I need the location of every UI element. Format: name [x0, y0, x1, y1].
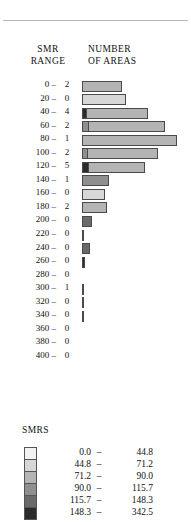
- histogram-bar: [82, 135, 177, 146]
- legend-row: 148.3–342.5: [45, 507, 191, 519]
- bar-segment: [82, 94, 126, 105]
- histogram-row: 360 –0: [0, 324, 191, 338]
- row-count-label: 2: [60, 79, 74, 89]
- legend-swatch: [25, 484, 36, 496]
- legend-range-high: 115.7: [107, 483, 153, 493]
- legend-color-ramp: [24, 447, 37, 520]
- legend-range-dash: –: [91, 495, 107, 505]
- row-count-label: 0: [60, 350, 74, 360]
- legend-range-dash: –: [91, 507, 107, 517]
- histogram-bar: [82, 216, 92, 227]
- histogram-row: 380 –0: [0, 337, 191, 351]
- legend-range-low: 115.7: [45, 495, 91, 505]
- bar-segment: [82, 243, 90, 254]
- row-count-label: 5: [60, 160, 74, 170]
- legend-swatch: [25, 496, 36, 508]
- row-range-label: 0 –: [0, 79, 56, 89]
- row-count-label: 0: [60, 269, 74, 279]
- legend-range-low: 44.8: [45, 459, 91, 469]
- histogram-bar: [82, 108, 148, 119]
- row-range-label: 100 –: [0, 147, 56, 157]
- histogram-bar: [82, 175, 109, 186]
- histogram-row: 0 –2: [0, 80, 191, 94]
- row-count-label: 1: [60, 174, 74, 184]
- row-range-label: 320 –: [0, 296, 56, 306]
- histogram-rows: 0 –220 –040 –460 –280 –1100 –2120 –5140 …: [0, 80, 191, 364]
- histogram-row: 240 –0: [0, 243, 191, 257]
- column-headers: SMR RANGE NUMBER OF AREAS: [0, 44, 191, 76]
- row-count-label: 0: [60, 242, 74, 252]
- row-range-label: 60 –: [0, 120, 56, 130]
- row-count-label: 0: [60, 336, 74, 346]
- bar-segment: [82, 81, 122, 92]
- histogram-row: 140 –1: [0, 175, 191, 189]
- legend-range-dash: –: [91, 447, 107, 457]
- bar-segment: [86, 108, 148, 119]
- legend-swatch: [25, 508, 36, 520]
- bar-segment: [87, 148, 158, 159]
- bar-segment: [82, 311, 84, 322]
- row-range-label: 180 –: [0, 201, 56, 211]
- row-range-label: 120 –: [0, 160, 56, 170]
- legend-swatch: [25, 448, 36, 460]
- histogram-row: 280 –0: [0, 270, 191, 284]
- legend-range-high: 342.5: [107, 507, 153, 517]
- bar-segment: [82, 135, 177, 146]
- histogram-bar: [82, 148, 158, 159]
- histogram-row: 320 –0: [0, 297, 191, 311]
- legend-range-low: 0.0: [45, 447, 91, 457]
- top-divider: [3, 20, 188, 21]
- row-range-label: 280 –: [0, 269, 56, 279]
- histogram-row: 180 –2: [0, 202, 191, 216]
- bar-segment: [88, 162, 145, 173]
- legend-row: 71.2–90.0: [45, 471, 191, 483]
- legend-row: 0.0–44.8: [45, 447, 191, 459]
- row-count-label: 0: [60, 323, 74, 333]
- histogram-bar: [82, 257, 85, 268]
- legend-range-high: 44.8: [107, 447, 153, 457]
- row-count-label: 2: [60, 120, 74, 130]
- legend-range-dash: –: [91, 471, 107, 481]
- histogram-bar: [82, 94, 126, 105]
- row-count-label: 2: [60, 147, 74, 157]
- histogram-row: 220 –0: [0, 229, 191, 243]
- histogram-bar: [82, 243, 90, 254]
- row-count-label: 0: [60, 255, 74, 265]
- row-count-label: 1: [60, 282, 74, 292]
- histogram-row: 340 –0: [0, 310, 191, 324]
- row-range-label: 240 –: [0, 242, 56, 252]
- row-range-label: 260 –: [0, 255, 56, 265]
- histogram-row: 20 –0: [0, 94, 191, 108]
- legend-row: 44.8–71.2: [45, 459, 191, 471]
- histogram-bar: [82, 311, 84, 322]
- histogram-row: 260 –0: [0, 256, 191, 270]
- histogram-bar: [82, 297, 84, 308]
- histogram-bar: [82, 189, 105, 200]
- bar-segment: [82, 202, 107, 213]
- row-range-label: 360 –: [0, 323, 56, 333]
- legend-row: 90.0–115.7: [45, 483, 191, 495]
- row-count-label: 0: [60, 93, 74, 103]
- row-range-label: 20 –: [0, 93, 56, 103]
- bar-segment: [88, 121, 165, 132]
- bar-segment: [82, 175, 109, 186]
- bar-segment: [82, 257, 85, 268]
- bar-segment: [82, 230, 84, 241]
- row-range-label: 200 –: [0, 214, 56, 224]
- row-count-label: 0: [60, 214, 74, 224]
- row-range-label: 300 –: [0, 282, 56, 292]
- row-range-label: 160 –: [0, 187, 56, 197]
- histogram-bar: [82, 81, 122, 92]
- row-count-label: 0: [60, 309, 74, 319]
- histogram-bar: [82, 230, 84, 241]
- bar-segment: [82, 216, 92, 227]
- legend-swatch: [25, 460, 36, 472]
- legend-range-high: 148.3: [107, 495, 153, 505]
- legend-range-low: 90.0: [45, 483, 91, 493]
- legend-body: 0.0–44.844.8–71.271.2–90.090.0–115.7115.…: [0, 447, 191, 523]
- row-range-label: 380 –: [0, 336, 56, 346]
- row-count-label: 4: [60, 106, 74, 116]
- histogram-row: 400 –0: [0, 351, 191, 365]
- row-range-label: 220 –: [0, 228, 56, 238]
- row-range-label: 340 –: [0, 309, 56, 319]
